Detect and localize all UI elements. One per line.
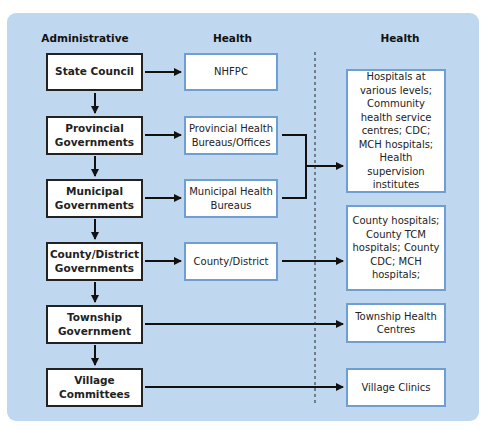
connector-lines [0,0,485,446]
